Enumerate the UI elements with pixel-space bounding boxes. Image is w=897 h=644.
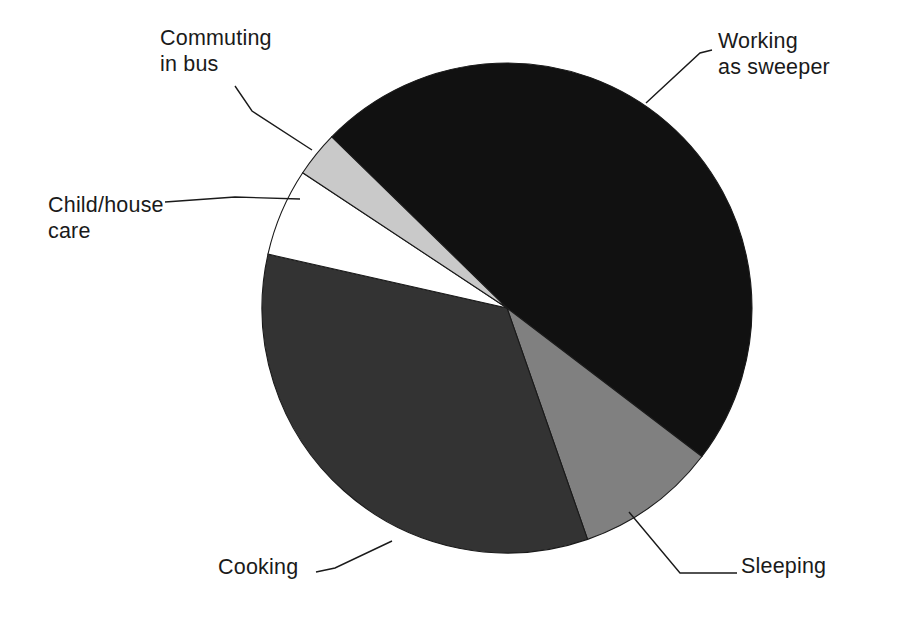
pie-slices-group — [262, 63, 752, 553]
pie-chart-canvas — [0, 0, 897, 644]
slice-label-commuting-in-bus: Commuting in bus — [160, 25, 272, 77]
slice-label-child-house-care: Child/house care — [48, 192, 164, 244]
leader-line-sleeping — [629, 512, 737, 573]
slice-label-working-as-sweeper: Working as sweeper — [718, 28, 830, 80]
slice-label-sleeping: Sleeping — [741, 553, 826, 579]
leader-line-cooking — [316, 541, 392, 572]
slice-label-cooking: Cooking — [218, 554, 298, 580]
leader-line-commuting — [235, 86, 312, 150]
leader-line-child — [165, 197, 300, 202]
leader-line-working — [646, 50, 712, 103]
pie-chart: Working as sweeper Commuting in bus Chil… — [0, 0, 897, 644]
